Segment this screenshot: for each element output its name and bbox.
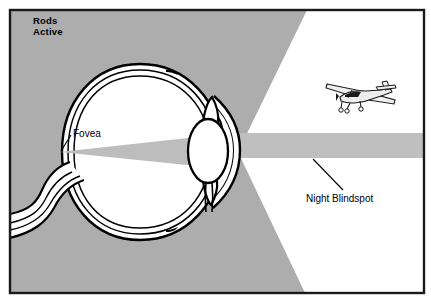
rods-active-line-2: Active [33,26,63,37]
diagram-canvas [0,0,431,300]
night-blindspot-label: Night Blindspot [306,193,373,204]
night-blindspot-diagram: RodsActive Fovea Night Blindspot [0,0,431,300]
airplane-right-wheel [359,107,363,111]
rods-active-label: RodsActive [33,16,63,37]
fovea-label: Fovea [73,128,101,139]
eye-lens [188,119,228,183]
lens-stalk-2 [212,182,213,212]
lens-stalk [205,182,206,212]
airplane-nose-wheel [339,108,343,112]
rods-active-line-1: Rods [33,15,58,26]
airplane-left-wheel [345,109,349,113]
